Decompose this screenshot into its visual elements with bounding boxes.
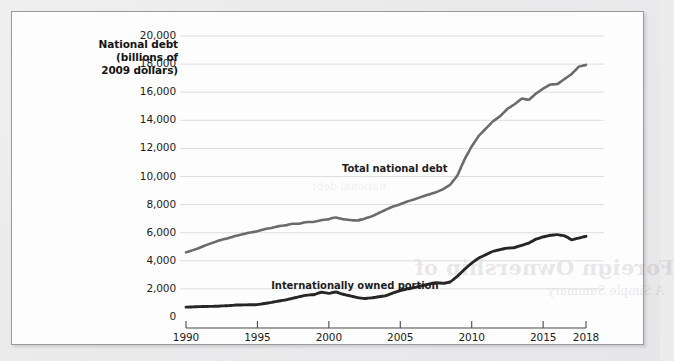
chart-plot-area: 20,00018,00016,00014,00012,00010,0008,00… (12, 12, 645, 346)
y-axis-tick-label: 14,000 (120, 113, 176, 125)
x-axis-tick-label: 2018 (564, 331, 608, 343)
x-axis-tick-label: 1990 (164, 331, 208, 343)
y-axis-tick-label: 4,000 (120, 254, 176, 266)
y-axis-tick-label: 0 (120, 310, 176, 322)
series-line-total-national-debt (186, 65, 586, 252)
y-axis-tick-label: 18,000 (120, 57, 176, 69)
series-annotation-total-national-debt: Total national debt (342, 163, 447, 174)
x-axis-tick-label: 2010 (450, 331, 494, 343)
x-axis-tick-label: 1995 (235, 331, 279, 343)
y-axis-tick-label: 2,000 (120, 282, 176, 294)
y-axis-tick-label: 10,000 (120, 170, 176, 182)
y-axis-tick-label: 6,000 (120, 226, 176, 238)
y-axis-tick-label: 16,000 (120, 85, 176, 97)
x-axis-tick-label: 2000 (307, 331, 351, 343)
y-axis-tick-label: 20,000 (120, 29, 176, 41)
series-annotation-internationally-owned-portion: Internationally owned portion (271, 280, 438, 291)
series-line-internationally-owned-portion (186, 235, 586, 308)
figure-frame: Foreign Ownership of A Simple Summary na… (11, 11, 644, 345)
chart-svg (12, 12, 645, 346)
x-axis-tick-label: 2005 (378, 331, 422, 343)
y-axis-tick-label: 12,000 (120, 141, 176, 153)
x-axis-tick-label: 2015 (521, 331, 565, 343)
y-axis-tick-label: 8,000 (120, 198, 176, 210)
